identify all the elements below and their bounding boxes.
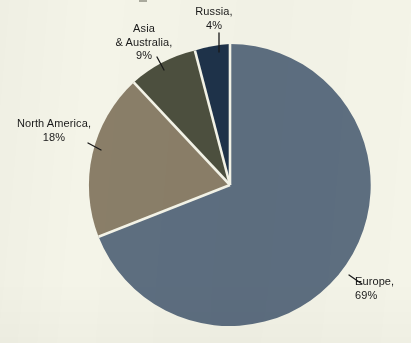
slice-label-europe-name: Europe, — [355, 275, 394, 287]
slice-label-north-america-name: North America, — [17, 117, 91, 129]
slice-label-asia-australia-value: 9% — [136, 49, 152, 61]
slice-label-russia-value: 4% — [206, 19, 222, 31]
slice-label-north-america-value: 18% — [43, 131, 65, 143]
slice-label-asia-australia-name-2: & Australia, — [116, 36, 173, 48]
cropped-title-artifact — [139, 0, 147, 2]
slice-label-russia: Russia,4% — [177, 5, 251, 32]
slice-label-europe-value: 69% — [355, 289, 377, 301]
slice-label-north-america: North America,18% — [2, 117, 106, 144]
slice-label-asia-australia-name-1: Asia — [133, 22, 155, 34]
pie-chart: Russia,4% Asia& Australia,9% North Ameri… — [0, 0, 411, 343]
slice-label-asia-australia: Asia& Australia,9% — [100, 22, 188, 63]
slice-label-russia-name: Russia, — [195, 5, 232, 17]
slice-label-europe: Europe,69% — [355, 275, 411, 302]
pie-chart-graphic — [0, 0, 411, 343]
